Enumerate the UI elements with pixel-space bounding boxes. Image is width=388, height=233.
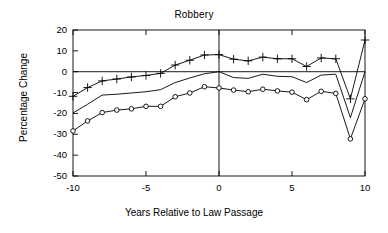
data-point-circle-marker bbox=[188, 91, 193, 96]
data-point-circle-marker bbox=[261, 87, 266, 92]
y-tick-label: -20 bbox=[31, 108, 67, 117]
chart-container: Robbery Percentage Change Years Relative… bbox=[0, 0, 388, 233]
x-tick-label: -5 bbox=[126, 182, 166, 193]
data-point-circle-marker bbox=[275, 89, 280, 94]
data-point-circle-marker bbox=[304, 97, 309, 102]
data-point-circle-marker bbox=[348, 137, 353, 142]
data-point-circle-marker bbox=[144, 104, 149, 109]
y-tick-label: -50 bbox=[31, 171, 67, 180]
y-tick-label: 10 bbox=[31, 46, 67, 55]
data-point-circle-marker bbox=[158, 104, 163, 109]
y-tick-label: 20 bbox=[31, 25, 67, 34]
y-tick-label: 0 bbox=[31, 67, 67, 76]
x-tick-label: 0 bbox=[199, 182, 239, 193]
x-tick-label: 5 bbox=[272, 182, 312, 193]
data-point-circle-marker bbox=[246, 89, 251, 94]
data-point-circle-marker bbox=[71, 129, 76, 134]
data-point-circle-marker bbox=[319, 89, 324, 94]
y-tick-label: -30 bbox=[31, 129, 67, 138]
data-point-circle-marker bbox=[100, 110, 105, 115]
x-tick-label: 10 bbox=[345, 182, 385, 193]
data-point-circle-marker bbox=[231, 88, 236, 93]
data-point-circle-marker bbox=[290, 90, 295, 95]
data-point-circle-marker bbox=[173, 94, 178, 99]
data-point-circle-marker bbox=[85, 119, 90, 124]
data-point-circle-marker bbox=[202, 84, 207, 89]
data-point-circle-marker bbox=[115, 108, 120, 113]
data-point-circle-marker bbox=[363, 97, 368, 102]
y-tick-label: -10 bbox=[31, 88, 67, 97]
data-point-circle-marker bbox=[334, 91, 339, 96]
data-point-circle-marker bbox=[129, 107, 134, 112]
data-point-circle-marker bbox=[217, 86, 222, 91]
x-tick-label: -10 bbox=[53, 182, 93, 193]
y-tick-label: -40 bbox=[31, 150, 67, 159]
